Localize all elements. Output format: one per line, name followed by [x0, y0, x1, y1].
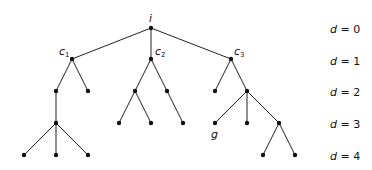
depth-label-2: d = 2 [330, 86, 360, 99]
node-e2 [245, 89, 249, 93]
node-e3 [245, 121, 249, 125]
edge-a3-a4 [24, 123, 56, 155]
depth-labels-group: d = 0 d = 1 d = 2 d = 3 d = 4 [330, 23, 360, 163]
label-c2: c2 [155, 45, 166, 59]
node-e5 [261, 153, 265, 157]
node-a3 [54, 121, 58, 125]
label-c3-subscript: 3 [240, 51, 244, 59]
node-b4 [149, 121, 153, 125]
node-c3 [229, 57, 233, 61]
depth-label-4: d = 4 [330, 150, 360, 163]
node-e4 [277, 121, 281, 125]
node-g [213, 121, 217, 125]
node-a2 [86, 89, 90, 93]
node-b2 [165, 89, 169, 93]
node-e1 [213, 89, 217, 93]
node-a4 [22, 153, 26, 157]
edge-c3-e2 [231, 59, 247, 91]
edge-e2-g [215, 91, 247, 123]
edge-c2-b1 [135, 59, 151, 91]
node-a5 [54, 153, 58, 157]
node-b1 [133, 89, 137, 93]
edge-c1-a1 [56, 59, 72, 91]
label-c3: c3 [234, 45, 245, 59]
edge-b1-b3 [119, 91, 135, 123]
node-e6 [293, 153, 297, 157]
edge-e4-e5 [263, 123, 279, 155]
edge-c3-e1 [215, 59, 231, 91]
edge-b1-b4 [135, 91, 151, 123]
edge-e4-e6 [279, 123, 295, 155]
depth-label-3: d = 3 [330, 118, 360, 131]
node-i [149, 26, 153, 30]
label-c1: c1 [59, 45, 70, 59]
node-b5 [181, 121, 185, 125]
depth-label-0: d = 0 [330, 23, 360, 36]
edge-c2-b2 [151, 59, 167, 91]
node-a1 [54, 89, 58, 93]
node-c2 [149, 57, 153, 61]
edge-i-c1 [72, 28, 151, 59]
label-c1-subscript: 1 [65, 51, 69, 59]
goal-label: g [211, 128, 218, 141]
edge-a3-a6 [56, 123, 88, 155]
tree-svg: i c1 c2 c3 g d = 0 d = 1 d = 2 d = 3 d =… [0, 0, 372, 170]
edge-b2-b5 [167, 91, 183, 123]
root-label: i [149, 12, 152, 25]
node-a6 [86, 153, 90, 157]
label-c2-subscript: 2 [161, 51, 165, 59]
node-c1 [70, 57, 74, 61]
depth-label-1: d = 1 [330, 55, 360, 68]
node-b3 [117, 121, 121, 125]
tree-diagram: i c1 c2 c3 g d = 0 d = 1 d = 2 d = 3 d =… [0, 0, 372, 170]
edge-e2-e4 [247, 91, 279, 123]
edge-c1-a2 [72, 59, 88, 91]
